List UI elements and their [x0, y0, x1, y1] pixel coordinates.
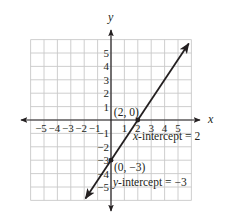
point-label: (0, −3)	[114, 161, 146, 174]
coordinate-graph: xy −5−4−3−2−11234554321−1−2−3−4−5 (2, 0)…	[0, 0, 231, 221]
x-tick-label: −2	[75, 122, 87, 134]
y-tick-label: 4	[104, 60, 110, 72]
y-tick-label: 5	[104, 47, 110, 59]
y-tick-label: 3	[104, 74, 110, 86]
x-intercept-annotation: x-intercept = 2	[132, 130, 200, 143]
y-tick-label: −2	[97, 141, 109, 153]
y-tick-label: 2	[104, 87, 110, 99]
intercept-point-marker	[135, 118, 140, 123]
x-tick-label: 1	[122, 122, 128, 134]
y-tick-label: −5	[97, 181, 109, 193]
x-tick-label: −5	[35, 122, 47, 134]
y-tick-label: 1	[104, 101, 110, 113]
intercept-point-marker	[109, 158, 114, 163]
point-label: (2, 0)	[114, 106, 139, 119]
y-intercept-annotation: y-intercept = −3	[112, 176, 187, 189]
x-tick-label: −4	[49, 122, 61, 134]
x-tick-label: −3	[62, 122, 74, 134]
x-axis-label: x	[207, 112, 214, 126]
y-tick-label: −1	[97, 127, 109, 139]
y-axis-label: y	[107, 10, 114, 24]
